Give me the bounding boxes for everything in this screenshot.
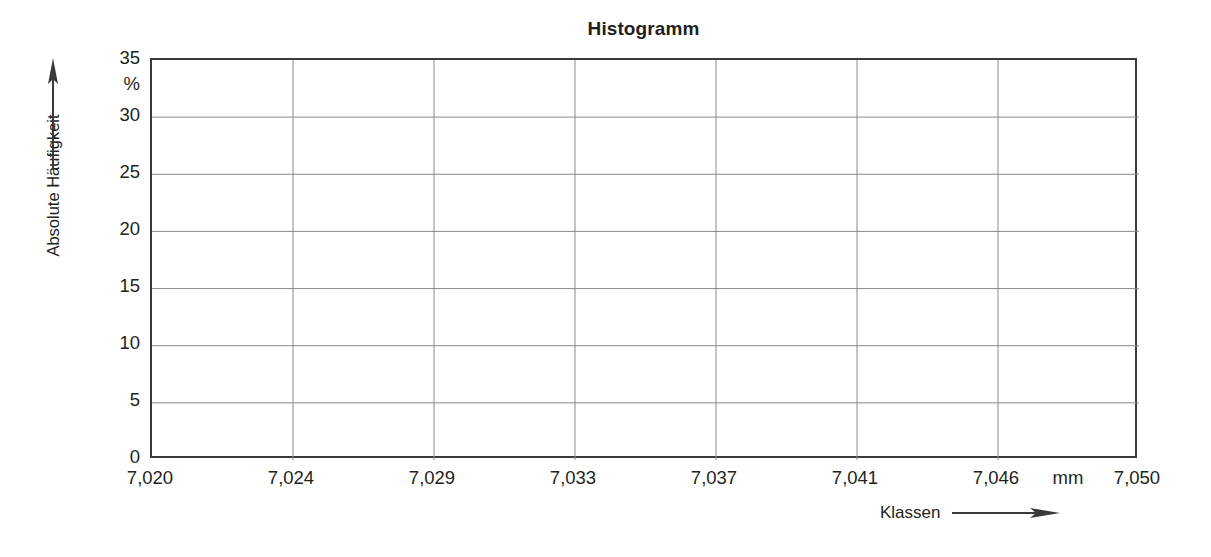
x-tick-label-7046: 7,046 <box>941 467 1051 488</box>
x-axis-arrow-icon <box>952 506 1060 520</box>
x-axis-title-group: Klassen <box>880 503 1060 523</box>
x-tick-label-7033: 7,033 <box>518 467 628 488</box>
histogram-figure: Histogramm Absolute Häufigkeit 35 % 30 2… <box>0 0 1211 557</box>
x-axis-title: Klassen <box>880 503 940 523</box>
x-tick-label-7037: 7,037 <box>659 467 769 488</box>
x-axis-tick-labels: 7,020 7,024 7,029 7,033 7,037 7,041 7,04… <box>0 0 1211 557</box>
x-tick-label-7041: 7,041 <box>800 467 910 488</box>
x-tick-label-7020: 7,020 <box>95 467 205 488</box>
x-tick-label-7029: 7,029 <box>377 467 487 488</box>
x-tick-label-7024: 7,024 <box>236 467 346 488</box>
x-tick-label-7050: 7,050 <box>1082 467 1192 488</box>
